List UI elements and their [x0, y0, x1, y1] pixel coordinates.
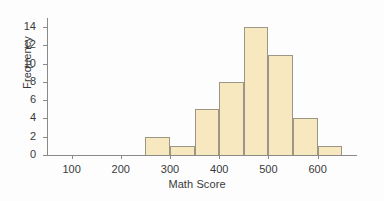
x-tick — [219, 155, 220, 159]
x-tick — [121, 155, 122, 159]
y-tick: 14 — [43, 27, 47, 28]
y-axis-line — [47, 18, 48, 156]
y-tick: 0 — [43, 155, 47, 156]
y-tick: 4 — [43, 118, 47, 119]
x-tick-label: 100 — [62, 163, 80, 175]
x-tick-label: 200 — [112, 163, 130, 175]
histogram-bar — [244, 27, 269, 155]
y-tick-label: 10 — [24, 57, 36, 70]
y-tick-label: 14 — [24, 20, 36, 33]
y-tick-label: 12 — [24, 38, 36, 51]
x-tick-label: 600 — [308, 163, 326, 175]
x-tick — [318, 155, 319, 159]
y-tick: 12 — [43, 45, 47, 46]
x-tick-label: 300 — [161, 163, 179, 175]
x-axis-label: Math Score — [47, 178, 347, 190]
x-tick — [268, 155, 269, 159]
y-tick-label: 8 — [30, 75, 36, 88]
histogram-bar — [195, 109, 220, 155]
y-tick: 10 — [43, 64, 47, 65]
histogram-bar — [268, 55, 293, 155]
y-tick: 8 — [43, 82, 47, 83]
histogram-figure: Frequency Math Score 02468101214 1002003… — [0, 0, 384, 201]
y-tick-label: 4 — [30, 111, 36, 124]
histogram-bar — [170, 146, 195, 155]
x-tick — [72, 155, 73, 159]
y-tick: 2 — [43, 137, 47, 138]
y-tick: 6 — [43, 100, 47, 101]
x-axis-line — [47, 155, 357, 156]
y-tick-label: 2 — [30, 130, 36, 143]
histogram-bar — [219, 82, 244, 155]
plot-area: 02468101214 100200300400500600 — [47, 18, 357, 155]
y-tick-label: 6 — [30, 93, 36, 106]
histogram-bar — [293, 118, 318, 155]
histogram-bar — [318, 146, 343, 155]
x-tick — [170, 155, 171, 159]
y-tick-label: 0 — [30, 148, 36, 161]
x-tick-label: 500 — [259, 163, 277, 175]
histogram-bar — [145, 137, 170, 155]
x-tick-label: 400 — [210, 163, 228, 175]
